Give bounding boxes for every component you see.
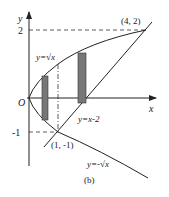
figure-caption: (b) bbox=[84, 175, 95, 185]
point-1-neg1-label: (1, -1) bbox=[51, 140, 74, 150]
curve-label-neg-sqrt: y=-√x bbox=[86, 159, 109, 169]
tick-y-neg1: -1 bbox=[12, 127, 20, 138]
strip-rect-2 bbox=[78, 53, 86, 103]
origin-label: O bbox=[18, 97, 25, 108]
curve-label-line: y=x-2 bbox=[77, 114, 100, 124]
x-axis-label: x bbox=[148, 103, 154, 114]
region-diagram: y x O 2 -1 (4, 2) (1, -1) y=√x y=x-2 y=-… bbox=[0, 0, 169, 197]
strip-rect-1 bbox=[42, 76, 48, 120]
line-y-eq-x-minus-2 bbox=[44, 22, 152, 147]
tick-y-2: 2 bbox=[18, 25, 23, 36]
point-4-2-label: (4, 2) bbox=[121, 16, 141, 26]
curve-label-sqrt: y=√x bbox=[35, 52, 55, 62]
y-axis-label: y bbox=[17, 13, 23, 24]
